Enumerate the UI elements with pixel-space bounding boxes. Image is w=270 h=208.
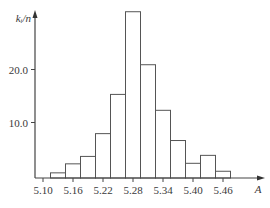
- x-tick-label: 5.22: [93, 184, 112, 196]
- histogram-bar: [156, 110, 171, 178]
- histogram-bar: [171, 141, 186, 178]
- x-tick-label: 5.10: [33, 184, 53, 196]
- x-tick-label: 5.40: [183, 184, 203, 196]
- y-tick-label: 20.0: [9, 64, 29, 76]
- x-tick-label: 5.34: [153, 184, 173, 196]
- x-axis-arrow-icon: [257, 176, 265, 181]
- histogram-bar: [201, 155, 216, 178]
- x-axis-label: A: [254, 183, 262, 195]
- y-ticks: 10.020.0: [9, 64, 35, 129]
- y-tick-label: 10.0: [9, 117, 29, 129]
- histogram-bar: [186, 163, 201, 178]
- histogram-bar: [141, 65, 156, 178]
- histogram-bar: [96, 134, 111, 178]
- histogram-bars: [51, 12, 231, 178]
- histogram-bar: [111, 94, 126, 178]
- histogram-bar: [216, 171, 231, 178]
- histogram-bar: [66, 164, 81, 178]
- x-tick-label: 5.28: [123, 184, 143, 196]
- histogram-chart: 5.105.165.225.285.345.405.46 10.020.0 kᵢ…: [0, 0, 270, 208]
- histogram-bar: [126, 12, 141, 178]
- x-tick-label: 5.16: [63, 184, 83, 196]
- y-axis-arrow-icon: [33, 10, 38, 18]
- y-axis-label: kᵢ/n: [16, 12, 32, 24]
- x-tick-label: 5.46: [213, 184, 233, 196]
- histogram-bar: [51, 173, 66, 178]
- x-ticks: 5.105.165.225.285.345.405.46: [33, 178, 233, 196]
- histogram-bar: [81, 156, 96, 178]
